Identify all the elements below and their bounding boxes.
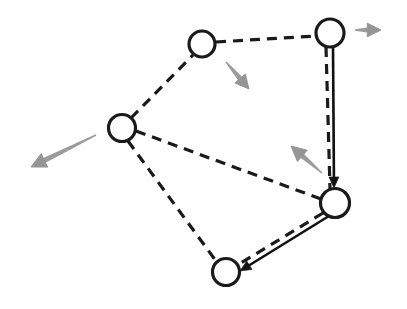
node-n-top-right[interactable] bbox=[316, 19, 344, 47]
graph-diagram bbox=[0, 0, 407, 309]
node-n-top-left[interactable] bbox=[189, 31, 215, 57]
node-n-left[interactable] bbox=[109, 115, 136, 142]
node-n-bottom[interactable] bbox=[213, 259, 240, 286]
graph-canvas bbox=[0, 0, 407, 309]
solid-arrow-a-tr-right-shaft bbox=[333, 47, 334, 179]
node-n-right[interactable] bbox=[321, 189, 350, 218]
